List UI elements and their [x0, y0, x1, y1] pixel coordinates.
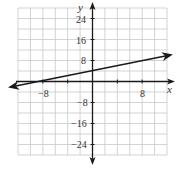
y-tick-label-24: 24 [76, 14, 86, 25]
y-tick-label-neg8: −8 [77, 97, 88, 108]
y-tick-label-8: 8 [81, 55, 86, 66]
axes [16, 2, 175, 165]
x-tick-label-8: 8 [140, 88, 145, 99]
y-tick-label-neg16: −16 [71, 118, 87, 129]
y-axis-label: y [77, 1, 83, 13]
x-tick-label-neg8: −8 [38, 88, 49, 99]
y-tick-label-neg24: −24 [71, 139, 87, 150]
x-axis-label: x [166, 83, 172, 95]
coordinate-plane: −8 8 24 16 8 −8 −16 −24 x y [0, 0, 181, 172]
y-tick-label-16: 16 [76, 35, 86, 46]
